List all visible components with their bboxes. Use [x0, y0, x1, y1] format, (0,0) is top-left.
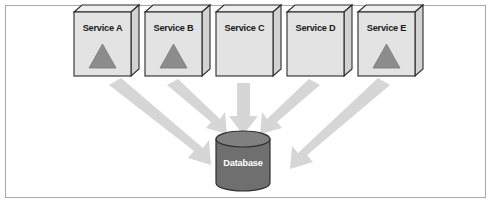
service-box-service-b[interactable]: Service B [145, 5, 210, 76]
service-box-front-face [287, 12, 344, 76]
service-box-label: Service C [224, 23, 265, 33]
service-box-service-e[interactable]: Service E [358, 5, 423, 76]
arrow-service-a-to-database [109, 78, 211, 165]
service-box-side-face [273, 5, 281, 76]
database-top [216, 131, 270, 147]
service-box-side-face [344, 5, 352, 76]
service-box-top-face [358, 5, 423, 12]
service-box-service-d[interactable]: Service D [287, 5, 352, 76]
service-box-label: Service B [153, 23, 194, 33]
service-box-top-face [74, 5, 139, 12]
service-box-label: Service E [367, 23, 407, 33]
arrow-service-d-to-database [260, 79, 320, 134]
service-box-side-face [202, 5, 210, 76]
service-box-side-face [131, 5, 139, 76]
arrow-service-c-to-database [229, 83, 258, 135]
service-box-top-face [216, 5, 281, 12]
service-box-service-c[interactable]: Service C [216, 5, 281, 76]
service-box-side-face [415, 5, 423, 76]
service-box-top-face [145, 5, 210, 12]
figure-root: Service A Service B Service C Service D [0, 0, 491, 205]
database-label: Database [223, 158, 262, 168]
shared-database-diagram: Service A Service B Service C Service D [0, 0, 491, 205]
service-box-front-face [216, 12, 273, 76]
service-box-label: Service D [295, 23, 336, 33]
service-box-label: Service A [83, 23, 123, 33]
database-cylinder[interactable]: Database [216, 131, 270, 191]
service-box-top-face [287, 5, 352, 12]
service-box-service-a[interactable]: Service A [74, 5, 139, 76]
